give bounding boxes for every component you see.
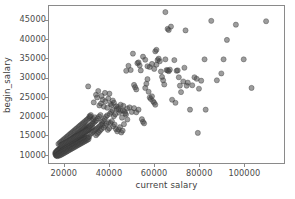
scatter-point: [177, 83, 182, 88]
scatter-point: [137, 63, 142, 68]
x-tick-mark: [64, 164, 65, 167]
scatter-point: [142, 121, 147, 126]
scatter-point: [149, 94, 154, 99]
y-tick-label: 35000: [19, 54, 46, 62]
y-tick-label: 15000: [19, 131, 46, 139]
y-tick-label: 40000: [19, 35, 46, 43]
x-tick-mark: [244, 164, 245, 167]
x-tick-mark: [199, 164, 200, 167]
y-tick-label: 20000: [19, 112, 46, 120]
scatter-point: [153, 102, 158, 107]
scatter-point: [143, 57, 148, 62]
scatter-points-layer: [49, 6, 284, 163]
scatter-point: [203, 107, 208, 112]
scatter-point: [118, 102, 123, 107]
y-axis-label-text: begin_salary: [2, 56, 12, 112]
scatter-point: [120, 128, 125, 133]
scatter-point: [224, 37, 229, 42]
scatter-point: [178, 90, 183, 95]
scatter-point: [175, 68, 180, 73]
scatter-point: [145, 77, 150, 82]
scatter-point: [136, 107, 141, 112]
x-tick-mark: [154, 164, 155, 167]
y-tick-label: 45000: [19, 15, 46, 23]
scatter-point: [241, 57, 246, 62]
scatter-point: [96, 88, 101, 93]
scatter-point: [154, 47, 159, 52]
x-tick-label: 100000: [228, 169, 260, 177]
scatter-point: [168, 24, 173, 29]
y-tick-label: 25000: [19, 93, 46, 101]
scatter-point: [86, 84, 91, 89]
x-tick-label: 40000: [96, 169, 123, 177]
scatter-point: [214, 78, 219, 83]
scatter-point: [125, 117, 130, 122]
scatter-point: [176, 75, 181, 80]
scatter-point: [190, 83, 195, 88]
scatter-point: [196, 86, 201, 91]
x-axis-label: current salary: [48, 181, 285, 190]
scatter-point: [219, 71, 224, 76]
scatter-point: [195, 130, 200, 135]
scatter-point: [123, 111, 128, 116]
scatter-point: [144, 81, 149, 86]
scatter-point: [134, 87, 139, 92]
scatter-point: [130, 51, 135, 56]
x-tick-label: 80000: [186, 169, 213, 177]
plot-area: [48, 5, 285, 164]
scatter-plot-figure: begin_salary 100001500020000250003000035…: [0, 0, 295, 199]
scatter-point: [102, 90, 107, 95]
scatter-point: [233, 22, 238, 27]
scatter-point: [202, 57, 207, 62]
scatter-point: [98, 112, 103, 117]
x-tick-label: 20000: [51, 169, 78, 177]
scatter-point: [152, 66, 157, 71]
scatter-point: [221, 57, 226, 62]
scatter-point: [167, 67, 172, 72]
scatter-point: [183, 28, 188, 33]
scatter-point: [138, 68, 143, 73]
scatter-point: [173, 100, 178, 105]
scatter-point: [121, 122, 126, 127]
scatter-point: [162, 82, 167, 87]
scatter-point: [209, 18, 214, 23]
scatter-point: [91, 100, 96, 105]
scatter-point: [264, 19, 269, 24]
x-tick-label: 60000: [141, 169, 168, 177]
scatter-point: [157, 59, 162, 64]
scatter-point: [172, 58, 177, 63]
scatter-point: [163, 57, 168, 62]
y-tick-label: 30000: [19, 73, 46, 81]
scatter-point: [128, 67, 133, 72]
x-tick-mark: [109, 164, 110, 167]
y-axis-label: begin_salary: [0, 5, 14, 164]
scatter-point: [182, 65, 187, 70]
scatter-point: [199, 78, 204, 83]
y-tick-label: 10000: [19, 151, 46, 159]
scatter-point: [163, 10, 168, 15]
scatter-point: [249, 85, 254, 90]
scatter-point: [158, 69, 163, 74]
scatter-point: [187, 107, 192, 112]
scatter-point: [146, 89, 151, 94]
scatter-point: [149, 61, 154, 66]
